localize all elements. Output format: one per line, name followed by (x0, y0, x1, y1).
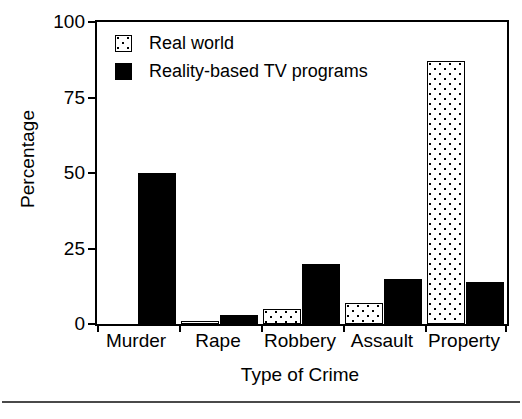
y-axis-tick (88, 97, 97, 99)
legend-swatch-icon (115, 35, 132, 52)
x-axis-tick-label: Robbery (264, 330, 336, 352)
x-axis-tick-labels: MurderRapeRobberyAssaultProperty (95, 330, 509, 356)
legend-item[interactable]: Real world (115, 31, 415, 56)
y-axis-tick (88, 21, 97, 23)
bar (345, 303, 383, 324)
bar (302, 264, 340, 324)
x-axis-tick-label: Murder (106, 330, 166, 352)
chart-figure: Percentage 0255075100 MurderRapeRobberyA… (0, 0, 522, 419)
legend-label: Reality-based TV programs (149, 61, 368, 82)
footer-divider (2, 401, 520, 403)
y-axis-tick-label: 50 (64, 162, 85, 184)
y-axis-tick-label: 100 (53, 11, 85, 33)
legend-swatch-icon (115, 63, 132, 80)
bar-group (425, 22, 507, 324)
bar (220, 315, 258, 324)
bar (181, 321, 219, 324)
y-axis-tick (88, 323, 97, 325)
bar (384, 279, 422, 324)
legend-item[interactable]: Reality-based TV programs (115, 59, 415, 84)
chart-legend: Real worldReality-based TV programs (115, 31, 415, 87)
x-axis-tick-label: Rape (195, 330, 240, 352)
y-axis-tick (88, 248, 97, 250)
bar (466, 282, 504, 324)
x-axis-tick-label: Property (428, 330, 500, 352)
y-axis-tick-label: 25 (64, 238, 85, 260)
bar (427, 61, 465, 324)
y-axis-tick-label: 75 (64, 87, 85, 109)
y-axis-tick-label: 0 (74, 313, 85, 335)
legend-label: Real world (149, 33, 234, 54)
x-axis-tick-label: Assault (351, 330, 413, 352)
x-axis-title: Type of Crime (95, 364, 505, 386)
y-axis-title: Percentage (17, 59, 39, 259)
bar (138, 173, 176, 324)
y-axis-tick (88, 172, 97, 174)
bar (263, 309, 301, 324)
